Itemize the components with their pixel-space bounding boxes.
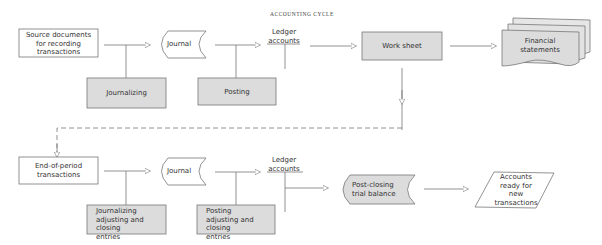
- end-of-period-label: End-of-period transactions: [19, 162, 98, 179]
- post-closing-label: Post-closing trial balance: [352, 181, 407, 198]
- ledger-accounts-label-bottom: Ledger accounts: [266, 156, 302, 173]
- source-documents-label: Source documents for recording transacti…: [19, 31, 98, 57]
- financial-statements-label: Financial statements: [515, 37, 565, 54]
- posting-adjusting-label: Posting adjusting and closing entries: [206, 207, 278, 241]
- diagram-title: ACCOUNTING CYCLE: [270, 11, 334, 17]
- journal-label-top: Journal: [162, 40, 196, 49]
- work-sheet-label: Work sheet: [362, 42, 442, 51]
- posting-label: Posting: [198, 88, 276, 97]
- journalizing-label: Journalizing: [87, 89, 166, 98]
- ledger-accounts-label-top: Ledger accounts: [266, 28, 302, 45]
- journalizing-adjusting-label: Journalizing adjusting and closing entri…: [96, 207, 168, 241]
- accounts-ready-label: Accounts ready for new transactions: [490, 173, 542, 207]
- dashed-feedback-loop: [57, 128, 402, 152]
- journal-label-bottom: Journal: [162, 167, 196, 176]
